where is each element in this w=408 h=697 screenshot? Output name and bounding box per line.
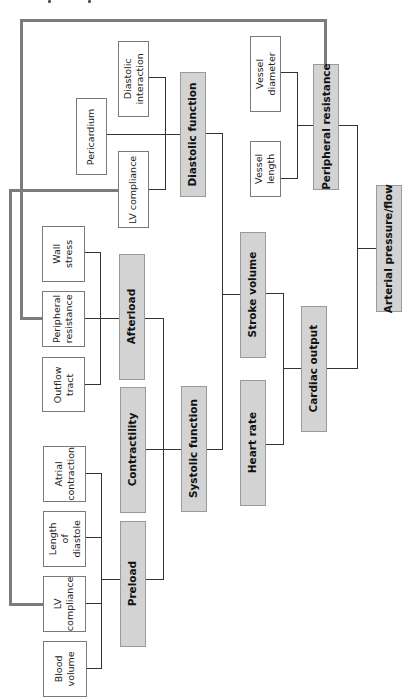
connector — [205, 133, 223, 134]
node-label: Length of diastole — [47, 520, 83, 557]
node-label: Systolic function — [187, 399, 200, 498]
connector — [101, 579, 120, 580]
feedback-loop-lv-compliance — [9, 189, 12, 606]
connector — [283, 368, 301, 369]
connector — [149, 77, 166, 78]
node-vessel-length: Vessel length — [250, 141, 281, 197]
node-label: Afterload — [125, 289, 138, 344]
connector — [206, 449, 223, 450]
node-wall-stress: Wall stress — [42, 226, 85, 282]
connector — [266, 444, 284, 445]
node-vessel-diameter: Vessel diameter — [250, 36, 281, 112]
node-lv-compliance-preload: LV compliance — [43, 576, 86, 632]
feedback-loop-peripheral-resistance — [324, 19, 327, 65]
cropped-text-fragment — [88, 0, 91, 3]
node-diastolic-function: Diastolic function — [180, 72, 206, 197]
feedback-loop-peripheral-resistance — [20, 317, 43, 320]
node-outflow-tract: Outflow tract — [42, 357, 85, 412]
node-blood-volume: Blood volume — [43, 641, 87, 697]
connector — [85, 473, 102, 474]
connector — [327, 368, 358, 369]
connector — [265, 293, 284, 294]
connector — [87, 668, 102, 669]
node-arterial-pressure-flow: Arterial pressure/flow — [376, 185, 402, 312]
node-cardiac-output: Cardiac output — [301, 306, 327, 432]
node-peripheral-resistance: Peripheral resistance — [313, 64, 339, 190]
node-label: Contractility — [126, 413, 139, 487]
node-stroke-volume: Stroke volume — [240, 232, 266, 358]
node-label: Blood volume — [53, 651, 77, 686]
connector — [85, 384, 101, 385]
node-label: Vessel diameter — [254, 52, 278, 95]
node-label: Heart rate — [246, 412, 259, 473]
connector — [222, 133, 223, 450]
node-label: Diastolic function — [186, 82, 199, 186]
node-label: Outflow tract — [52, 366, 76, 403]
connector — [146, 579, 164, 580]
node-pericardium: Pericardium — [76, 98, 107, 175]
node-label: Pericardium — [86, 108, 98, 165]
node-contractility: Contractility — [120, 387, 146, 513]
node-diastolic-interaction: Diastolic interaction — [118, 41, 149, 117]
node-lv-compliance-diastolic: LV compliance — [118, 151, 149, 228]
node-label: Vessel length — [254, 154, 278, 184]
feedback-loop-peripheral-resistance — [20, 19, 327, 22]
connector — [85, 252, 101, 253]
node-label: Peripheral resistance — [52, 295, 76, 344]
connector — [281, 178, 298, 179]
node-label: Atrial contraction — [53, 447, 77, 501]
node-label: Wall stress — [52, 240, 76, 268]
node-afterload: Afterload — [119, 254, 145, 380]
connector — [357, 125, 358, 369]
node-label: Stroke volume — [246, 252, 259, 338]
connector — [86, 603, 102, 604]
connector — [86, 537, 102, 538]
node-systolic-function: Systolic function — [181, 386, 207, 512]
node-preload: Preload — [120, 521, 146, 647]
connector — [357, 248, 376, 249]
connector — [145, 318, 164, 319]
node-atrial-contraction: Atrial contraction — [43, 446, 86, 502]
node-length-of-diastole: Length of diastole — [43, 511, 86, 567]
node-label: LV compliance — [128, 155, 140, 223]
connector — [101, 473, 102, 669]
node-heart-rate: Heart rate — [240, 380, 266, 506]
node-label: Cardiac output — [307, 325, 320, 413]
connector — [145, 449, 181, 450]
node-label: Arterial pressure/flow — [382, 184, 395, 313]
node-peripheral-resistance-afterload: Peripheral resistance — [42, 291, 85, 347]
feedback-loop-peripheral-resistance — [20, 19, 23, 320]
connector — [280, 72, 298, 73]
connector — [148, 189, 166, 190]
feedback-loop-lv-compliance — [9, 189, 119, 192]
connector — [339, 125, 358, 126]
node-label: Diastolic interaction — [122, 53, 146, 104]
connector — [297, 125, 313, 126]
node-label: LV compliance — [53, 577, 77, 632]
cropped-text-fragment — [48, 0, 51, 3]
connector — [222, 294, 240, 295]
node-label: Preload — [126, 561, 139, 606]
connector — [107, 134, 180, 135]
node-label: Peripheral resistance — [319, 64, 332, 191]
connector — [85, 318, 119, 319]
feedback-loop-lv-compliance — [9, 603, 44, 606]
connector — [283, 293, 284, 445]
